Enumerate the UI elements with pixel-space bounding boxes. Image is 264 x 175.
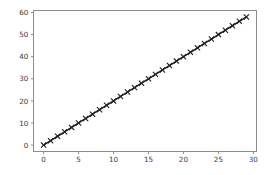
line-chart: 051015202530 0102030405060 <box>0 0 264 175</box>
x-tick-label: 10 <box>109 155 119 164</box>
y-tick-label: 30 <box>19 74 29 83</box>
x-tick-label: 25 <box>214 155 223 164</box>
x-tick-label: 0 <box>41 155 46 164</box>
y-tick-label: 40 <box>19 52 29 61</box>
y-tick-label: 20 <box>19 97 29 106</box>
x-tick-label: 30 <box>249 155 259 164</box>
x-tick-label: 5 <box>76 155 81 164</box>
y-tick-label: 60 <box>19 8 29 17</box>
x-tick-label: 15 <box>144 155 153 164</box>
y-tick-label: 10 <box>19 119 29 128</box>
y-tick-label: 50 <box>19 30 29 39</box>
figure-canvas: 051015202530 0102030405060 <box>0 0 264 175</box>
y-tick-label: 0 <box>24 141 29 150</box>
x-tick-label: 20 <box>179 155 189 164</box>
